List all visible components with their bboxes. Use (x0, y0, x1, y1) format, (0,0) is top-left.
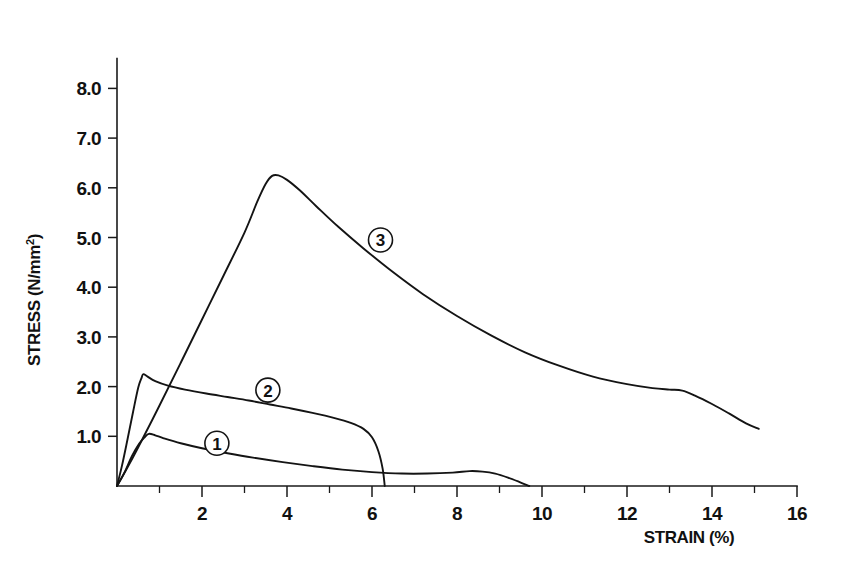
y-tick-label: 7.0 (76, 128, 101, 149)
series-label-text-3: 3 (376, 231, 385, 250)
y-axis-title: STRESS (N/mm2) (24, 234, 44, 366)
x-tick-label: 8 (452, 503, 462, 524)
chart-plot-area: 1.02.03.04.05.06.07.08.0246810121416 123… (0, 0, 843, 574)
x-tick-label: 4 (282, 503, 293, 524)
x-tick-label: 14 (702, 503, 723, 524)
x-tick-label: 16 (787, 503, 807, 524)
y-tick-label: 1.0 (76, 426, 101, 447)
axes (117, 59, 797, 486)
series-label-1: 1 (205, 431, 229, 455)
svg-text:STRESS (N/mm2): STRESS (N/mm2) (24, 234, 44, 366)
y-tick-label: 8.0 (76, 78, 101, 99)
y-tick-label: 3.0 (76, 327, 101, 348)
x-tick-label: 2 (197, 503, 207, 524)
tick-labels: 1.02.03.04.05.06.07.08.0246810121416 (76, 78, 807, 524)
curve-series-1 (117, 434, 529, 486)
stress-strain-chart-figure: 1.02.03.04.05.06.07.08.0246810121416 123… (0, 0, 843, 574)
series-label-2: 2 (256, 378, 280, 402)
x-axis-title: STRAIN (%) (644, 528, 734, 547)
y-tick-label: 6.0 (76, 178, 101, 199)
series-label-text-2: 2 (263, 382, 272, 401)
series-label-3: 3 (369, 228, 393, 252)
x-tick-label: 6 (367, 503, 377, 524)
y-tick-label: 5.0 (76, 228, 101, 249)
x-tick-label: 10 (532, 503, 552, 524)
y-tick-label: 4.0 (76, 277, 101, 298)
x-tick-label: 12 (617, 503, 637, 524)
series-label-text-1: 1 (212, 435, 221, 454)
y-axis-title-base: STRESS (N/mm (25, 245, 44, 366)
series-labels: 123 (205, 228, 393, 455)
y-axis-title-close: ) (25, 234, 44, 239)
y-tick-label: 2.0 (76, 377, 101, 398)
